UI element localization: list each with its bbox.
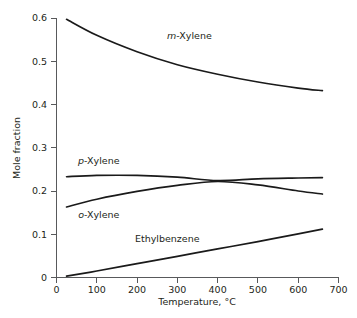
x-tick-label: 300 <box>168 284 186 295</box>
series-label-p-xylene: p-Xylene <box>77 155 120 166</box>
x-tick-label: 400 <box>209 284 227 295</box>
x-tick-label: 100 <box>88 284 106 295</box>
series-label-ethylbenzene: Ethylbenzene <box>135 233 200 244</box>
y-tick-label: 0.2 <box>32 185 47 196</box>
chart-container: 00.10.20.30.40.50.6 Mole fraction 010020… <box>0 0 357 318</box>
y-tick-label: 0.1 <box>32 229 47 240</box>
x-tick-label: 600 <box>289 284 307 295</box>
x-tick-label: 500 <box>249 284 267 295</box>
x-axis-title: Temperature, °C <box>157 296 236 307</box>
y-tick-label: 0 <box>41 272 47 283</box>
x-tick-label: 0 <box>53 284 59 295</box>
x-tick-label: 700 <box>329 284 347 295</box>
y-tick-label: 0.6 <box>32 12 47 23</box>
y-tick-label: 0.3 <box>32 142 47 153</box>
series-label-rest: -Xylene <box>84 155 120 166</box>
chart-background <box>0 0 357 318</box>
x-tick-label: 200 <box>128 284 146 295</box>
series-label-rest: -Xylene <box>176 30 212 41</box>
y-axis-title: Mole fraction <box>11 117 22 179</box>
series-label-prefix: m <box>167 30 176 41</box>
series-label-o-xylene: o-Xylene <box>78 209 119 220</box>
series-label-prefix: p <box>77 155 84 166</box>
y-tick-label: 0.4 <box>32 99 47 110</box>
series-label-m-xylene: m-Xylene <box>167 30 212 41</box>
y-tick-label: 0.5 <box>32 56 47 67</box>
series-label-rest: -Xylene <box>84 209 120 220</box>
mole-fraction-vs-temperature-chart: 00.10.20.30.40.50.6 Mole fraction 010020… <box>0 0 357 318</box>
